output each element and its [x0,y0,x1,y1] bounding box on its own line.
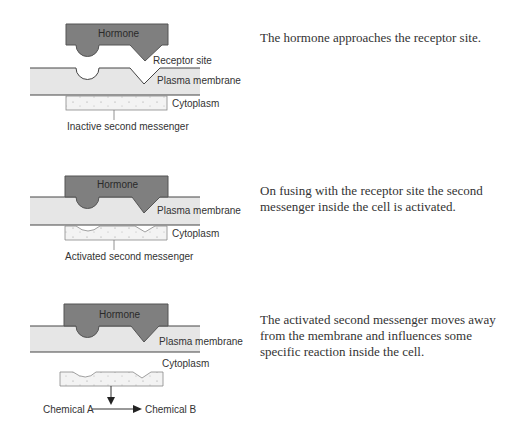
messenger-label: Inactive second messenger [67,121,189,132]
hormone-label: Hormone [99,309,141,320]
messenger-label: Activated second messenger [65,251,194,262]
cytoplasm-label: Cytoplasm [162,358,209,369]
stage-2-caption: On fusing with the receptor site the sec… [260,183,508,215]
hormone-action-diagram: Hormone Receptor site Plasma membrane Cy… [0,0,508,430]
hormone-label: Hormone [98,28,140,39]
activated-second-messenger [65,226,167,240]
stage-1-caption: The hormone approaches the receptor site… [260,30,482,46]
plasma-membrane-label: Plasma membrane [157,75,241,86]
cytoplasm-label: Cytoplasm [172,228,219,239]
inactive-second-messenger [66,96,167,110]
arrow-down-icon [107,397,115,405]
arrow-right-icon [133,405,142,413]
stage-2-diagram: Hormone Plasma membrane Cytoplasm Activa… [30,176,241,262]
plasma-membrane-label: Plasma membrane [157,205,241,216]
stage-3-diagram: Hormone Plasma membrane Cytoplasm Chemic… [30,304,243,415]
hormone-label: Hormone [97,179,139,190]
chemical-a-label: Chemical A [43,404,94,415]
plasma-membrane-label: Plasma membrane [159,336,243,347]
chemical-b-label: Chemical B [145,404,196,415]
receptor-site-label: Receptor site [153,55,212,66]
activated-second-messenger [60,372,163,386]
stage-3-caption: The activated second messenger moves awa… [260,312,505,360]
cytoplasm-label: Cytoplasm [172,98,219,109]
stage-1-diagram: Hormone Receptor site Plasma membrane Cy… [30,24,241,132]
